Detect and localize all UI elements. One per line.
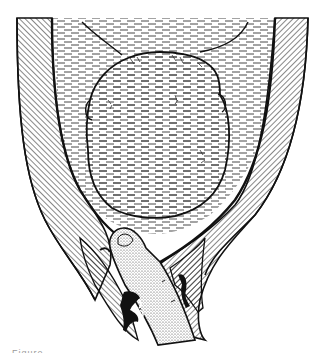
medical-illustration (0, 0, 324, 353)
figure-caption: Figure (12, 346, 44, 353)
